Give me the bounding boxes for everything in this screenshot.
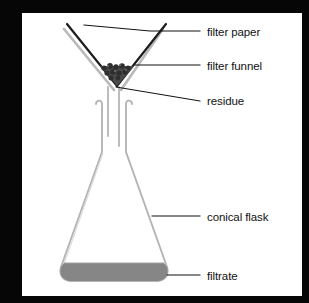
label-residue: residue [207, 95, 244, 107]
filtrate-body [60, 263, 167, 281]
flask-outline [60, 101, 167, 281]
conical-flask[interactable] [60, 101, 167, 281]
image-frame: filter paper filter funnel residue conic… [0, 0, 309, 303]
leader-filter-paper [84, 25, 200, 31]
flask-highlight [63, 153, 103, 267]
filtrate[interactable] [60, 263, 167, 281]
label-filter-funnel: filter funnel [207, 60, 262, 72]
funnel-wall-left [64, 29, 114, 90]
filtration-diagram [22, 13, 302, 296]
diagram-canvas: filter paper filter funnel residue conic… [22, 13, 302, 296]
residue[interactable] [100, 63, 134, 86]
label-filter-paper: filter paper [207, 26, 260, 38]
label-filtrate: filtrate [207, 270, 238, 282]
funnel-wall-right [121, 29, 163, 90]
leader-residue [116, 87, 200, 101]
label-conical-flask: conical flask [207, 211, 268, 223]
